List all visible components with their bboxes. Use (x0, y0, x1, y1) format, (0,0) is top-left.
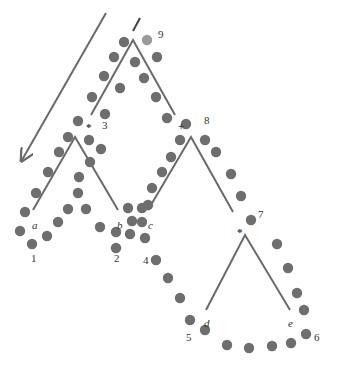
dot (99, 71, 109, 81)
number-5: 5 (186, 331, 192, 343)
dot (143, 200, 153, 210)
dot (272, 239, 282, 249)
dot (185, 315, 195, 325)
number-4: 4 (143, 254, 149, 266)
label-d: d (204, 317, 210, 329)
dot (147, 183, 157, 193)
dot (125, 229, 135, 239)
number-9: 9 (158, 28, 164, 40)
number-8: 8 (204, 114, 210, 126)
dot (123, 203, 133, 213)
dot (175, 135, 185, 145)
number-6: 6 (314, 331, 320, 343)
dot (63, 132, 73, 142)
dot (283, 263, 293, 273)
dot (42, 231, 52, 241)
dot (81, 204, 91, 214)
dot (162, 113, 172, 123)
label-e: e (288, 317, 293, 329)
dot (119, 37, 129, 47)
dot (109, 52, 119, 62)
marker-star-7: * (237, 226, 243, 238)
dot (95, 222, 105, 232)
label-a: a (32, 219, 38, 231)
marker-star-3: * (86, 121, 92, 133)
dot (166, 152, 176, 162)
dot (244, 343, 254, 353)
dot (267, 341, 277, 351)
dot (115, 83, 125, 93)
dot (200, 135, 210, 145)
number-2: 2 (114, 252, 120, 264)
dot (246, 215, 256, 225)
dot (20, 207, 30, 217)
dot (236, 191, 246, 201)
tick-mark (133, 18, 140, 31)
dot (96, 144, 106, 154)
dot (142, 35, 152, 45)
number-1: 1 (31, 252, 37, 264)
dot (31, 188, 41, 198)
label-b: b (117, 219, 123, 231)
dot (211, 147, 221, 157)
dot (139, 73, 149, 83)
dot (137, 217, 147, 227)
dot (53, 217, 63, 227)
dot (151, 92, 161, 102)
number-3: 3 (102, 119, 108, 131)
dot (286, 338, 296, 348)
dot (84, 135, 94, 145)
number-7: 7 (258, 208, 264, 220)
dot (301, 329, 311, 339)
dot (226, 169, 236, 179)
dot (222, 340, 232, 350)
dot (63, 204, 73, 214)
dot (175, 293, 185, 303)
dot (292, 288, 302, 298)
label-c: c (148, 219, 153, 231)
dot (127, 216, 137, 226)
dot (130, 57, 140, 67)
dot (85, 157, 95, 167)
dot (157, 167, 167, 177)
dot (73, 116, 83, 126)
dot (163, 273, 173, 283)
dot (74, 172, 84, 182)
dot (140, 233, 150, 243)
dot (299, 305, 309, 315)
dot (73, 188, 83, 198)
dot (100, 109, 110, 119)
dot (15, 226, 25, 236)
dot (87, 92, 97, 102)
dot (151, 255, 161, 265)
dot (152, 52, 162, 62)
dot (43, 167, 53, 177)
dot (27, 239, 37, 249)
marker-plus-8: + (178, 120, 184, 132)
dot (54, 147, 64, 157)
diagram-canvas: abcde123456789*+* (0, 0, 337, 369)
